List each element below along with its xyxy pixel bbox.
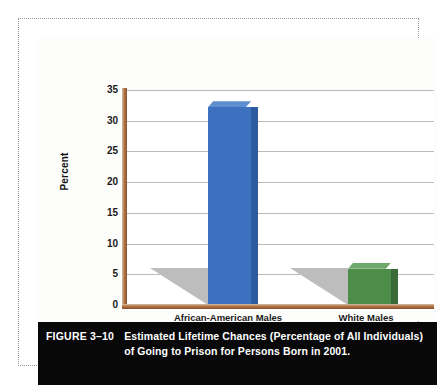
figure-frame: Percent 35 30 25 20 15 10 5 0	[18, 18, 419, 366]
figure-caption: FIGURE 3–10 Estimated Lifetime Chances (…	[38, 322, 437, 385]
y-tick-label: 10	[92, 239, 118, 249]
figure-caption-label: FIGURE 3–10	[46, 329, 124, 379]
y-axis-tick-labels: 35 30 25 20 15 10 5 0	[90, 38, 118, 320]
x-axis-line	[122, 304, 434, 309]
y-axis-title: Percent	[59, 137, 70, 207]
bar-african-american-males[interactable]	[208, 90, 258, 305]
bar-front-face	[208, 107, 251, 305]
y-tick-label: 0	[92, 300, 118, 310]
figure-caption-text: Estimated Lifetime Chances (Percentage o…	[124, 329, 429, 379]
bar-side-face	[391, 269, 398, 305]
plot-area	[126, 90, 434, 305]
bar-side-face	[251, 107, 258, 305]
y-tick-label: 25	[92, 146, 118, 156]
y-tick-label: 20	[92, 177, 118, 187]
bar-shadow	[290, 268, 348, 305]
bar-white-males[interactable]	[348, 90, 398, 305]
bar-shadow	[150, 268, 208, 305]
y-axis-line	[122, 88, 127, 309]
y-tick-label: 35	[92, 85, 118, 95]
bar-front-face	[348, 269, 391, 305]
bar-chart: Percent 35 30 25 20 15 10 5 0	[38, 38, 437, 320]
y-tick-label: 5	[92, 269, 118, 279]
y-tick-label: 15	[92, 208, 118, 218]
y-tick-label: 30	[92, 116, 118, 126]
